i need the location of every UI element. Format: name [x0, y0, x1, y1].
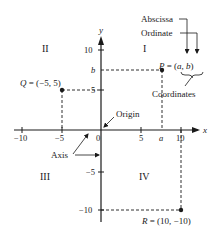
coordinates-label: Coordinates: [152, 89, 196, 99]
ordinate-label: Ordinate: [141, 28, 173, 38]
x-axis-arrow-icon: [192, 127, 200, 133]
point-P-label: P = (a, b): [158, 61, 194, 71]
y-tick-neg5: −5: [86, 167, 95, 177]
quadrant-I-label: I: [143, 43, 146, 54]
coordinates-callout: Coordinates: [152, 72, 203, 99]
y-axis-arrow-icon: [98, 36, 104, 45]
origin-label: Origin: [116, 109, 140, 119]
axis-label: Axis: [51, 150, 69, 160]
x-tick-5: 5: [139, 133, 143, 143]
y-tick-b: b: [91, 65, 95, 75]
x-tick-0: 0: [96, 133, 100, 143]
x-axis: x −10 −5 0 5 a 10: [14, 125, 207, 143]
brace-icon: [181, 72, 203, 78]
point-Q-marker: [60, 88, 64, 92]
y-axis: y 10 b 5 −5 −10: [79, 25, 104, 222]
point-Q-label: Q = (−5, 5): [20, 78, 61, 88]
ordinate-callout: Ordinate: [141, 28, 197, 53]
point-R-marker: [179, 208, 183, 212]
x-tick-neg10: −10: [14, 133, 27, 143]
quadrant-IV-label: IV: [139, 171, 150, 182]
x-axis-label: x: [202, 125, 207, 135]
origin-callout: Origin: [104, 109, 140, 127]
point-R-label: R = (10, −10): [141, 216, 191, 226]
quadrant-III-label: III: [40, 171, 50, 182]
x-tick-neg5: −5: [55, 133, 64, 143]
y-tick-neg10: −10: [79, 205, 92, 215]
x-tick-10: 10: [176, 133, 185, 143]
y-axis-label: y: [98, 25, 103, 35]
y-tick-10: 10: [84, 45, 93, 55]
quadrant-II-label: II: [42, 43, 49, 54]
x-tick-a: a: [159, 133, 163, 143]
point-Q: Q = (−5, 5): [20, 78, 98, 130]
coordinate-plane-diagram: x −10 −5 0 5 a 10 y 10 b 5 −5 −10 II I I…: [0, 0, 212, 231]
abscissa-label: Abscissa: [141, 14, 173, 24]
